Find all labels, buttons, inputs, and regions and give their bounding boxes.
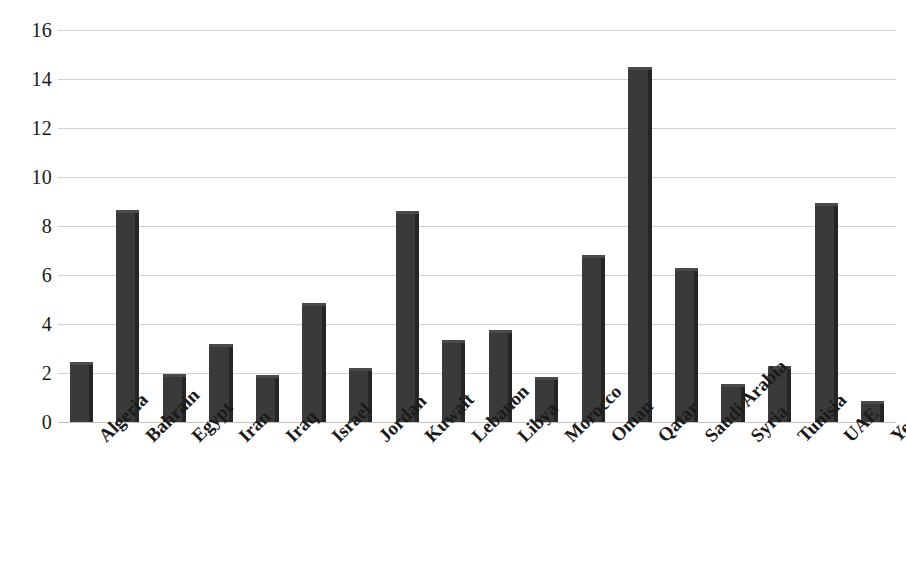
bar-cap [442,340,465,343]
y-axis-tick-label: 16 [31,20,52,40]
bar-cap [396,211,419,214]
bar-cap [209,344,232,347]
bar-slot [70,30,93,422]
bar-slot [815,30,838,422]
x-axis-tick-label: Tunisia [794,432,807,445]
y-axis-tick-label: 0 [42,412,52,432]
bar-cap [489,330,512,333]
bar-slot [721,30,744,422]
y-axis-tick-label: 2 [42,363,52,383]
x-axis-tick-label: Syria [747,432,760,445]
bar-slot [349,30,372,422]
y-axis-labels: 1614121086420 [0,30,52,422]
bar-cap [815,203,838,206]
x-axis-tick-label: Lebanon [468,432,481,445]
bar-slot [116,30,139,422]
x-axis-tick-label: Morocco [561,432,574,445]
y-axis-tick-label: 10 [31,167,52,187]
bar-cap [349,368,372,371]
bar-cap [675,268,698,271]
x-axis-labels: AlgeriaBahrainEgyptIranIraqIsraelJordanK… [58,422,896,562]
x-axis-tick-label: Bahrain [142,432,155,445]
x-axis-tick-label: Saudi Arabia [701,432,714,445]
x-axis-tick-label: Israel [328,432,341,445]
bar-cap [582,255,605,258]
bar [628,67,651,422]
bar-slot [302,30,325,422]
bar-slot [163,30,186,422]
x-axis-tick-label: Oman [607,432,620,445]
bar-cap [861,401,884,404]
x-axis-tick-label: UAE [840,432,853,445]
bar [302,303,325,422]
x-axis-tick-label: Kuwait [421,432,434,445]
x-axis-tick-label: Iraq [282,432,295,445]
bar-cap [535,377,558,380]
y-axis-tick-label: 8 [42,216,52,236]
bar-slot [628,30,651,422]
bar-cap [163,374,186,377]
y-axis-tick-label: 6 [42,265,52,285]
y-axis-tick-label: 12 [31,118,52,138]
bar-slot [535,30,558,422]
bar-slot [442,30,465,422]
bar-cap [70,362,93,365]
bar-slot [861,30,884,422]
x-axis-tick-label: Yemen [887,432,900,445]
bar-slot [675,30,698,422]
bar-cap [302,303,325,306]
bar-chart: 1614121086420 AlgeriaBahrainEgyptIranIra… [0,0,906,569]
bar-cap [256,375,279,378]
bar-cap [628,67,651,70]
bar-slot [396,30,419,422]
bar-slot [489,30,512,422]
bar-cap [721,384,744,387]
y-axis-tick-label: 14 [31,69,52,89]
x-axis-tick-label: Egypt [188,432,201,445]
x-axis-tick-label: Jordan [375,432,388,445]
x-axis-tick-label: Iran [235,432,248,445]
bar-slot [209,30,232,422]
bar-slot [582,30,605,422]
y-axis-tick-label: 4 [42,314,52,334]
bar [70,362,93,422]
bar-slot [256,30,279,422]
x-axis-tick-label: Libya [514,432,527,445]
x-axis-tick-label: Algeria [95,432,108,445]
x-axis-tick-label: Qatar [654,432,667,445]
bar-cap [116,210,139,213]
